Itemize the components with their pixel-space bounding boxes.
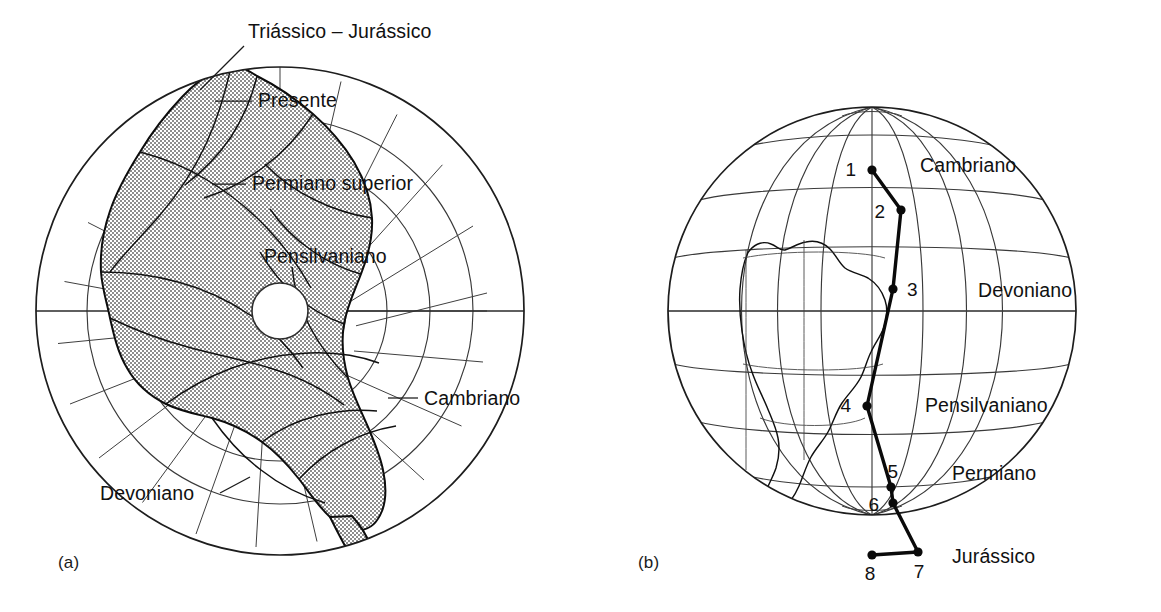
graticule-over-continent: [743, 240, 885, 470]
panel-a-svg: Triássico – Jurássico Presente Permiano …: [0, 0, 580, 612]
figure-continental-drift: Triássico – Jurássico Presente Permiano …: [0, 0, 1161, 612]
panel-b-svg: 1 2 3 4 5 6 7 8 Cambriano Devoniano Pens…: [580, 0, 1161, 612]
panel-a-caption: (a): [58, 553, 79, 573]
ring-label-devoniano: Devoniano: [100, 482, 194, 504]
era-label-pensilvaniano: Pensilvaniano: [925, 394, 1048, 416]
path-point-label-7: 7: [914, 561, 925, 582]
path-point-label-4: 4: [840, 395, 851, 416]
south-america-outline: [740, 240, 887, 512]
panel-b-caption: (b): [638, 553, 659, 573]
era-label-cambriano: Cambriano: [920, 154, 1016, 176]
panel-a-polar-reconstruction: Triássico – Jurássico Presente Permiano …: [0, 0, 580, 612]
panel-b-globe-polar-wander: 1 2 3 4 5 6 7 8 Cambriano Devoniano Pens…: [580, 0, 1161, 612]
ring-label-pensilvaniano: Pensilvaniano: [264, 245, 387, 267]
ring-label-cambriano: Cambriano: [424, 387, 520, 409]
path-point-label-3: 3: [907, 279, 918, 300]
path-point-label-6: 6: [868, 494, 879, 515]
era-label-devoniano: Devoniano: [978, 279, 1072, 301]
panel-a-pole-hole: [252, 283, 308, 339]
era-label-jurassico: Jurássico: [952, 545, 1035, 567]
ring-label-permiano-superior: Permiano superior: [252, 172, 413, 194]
era-label-permiano: Permiano: [952, 462, 1036, 484]
path-point-label-2: 2: [874, 201, 885, 222]
ring-label-triassic-jurassic: Triássico – Jurássico: [248, 20, 431, 42]
ring-label-presente: Presente: [258, 89, 337, 111]
path-point-label-1: 1: [845, 159, 856, 180]
path-point-label-8: 8: [865, 563, 876, 584]
path-point-label-5: 5: [887, 461, 898, 482]
